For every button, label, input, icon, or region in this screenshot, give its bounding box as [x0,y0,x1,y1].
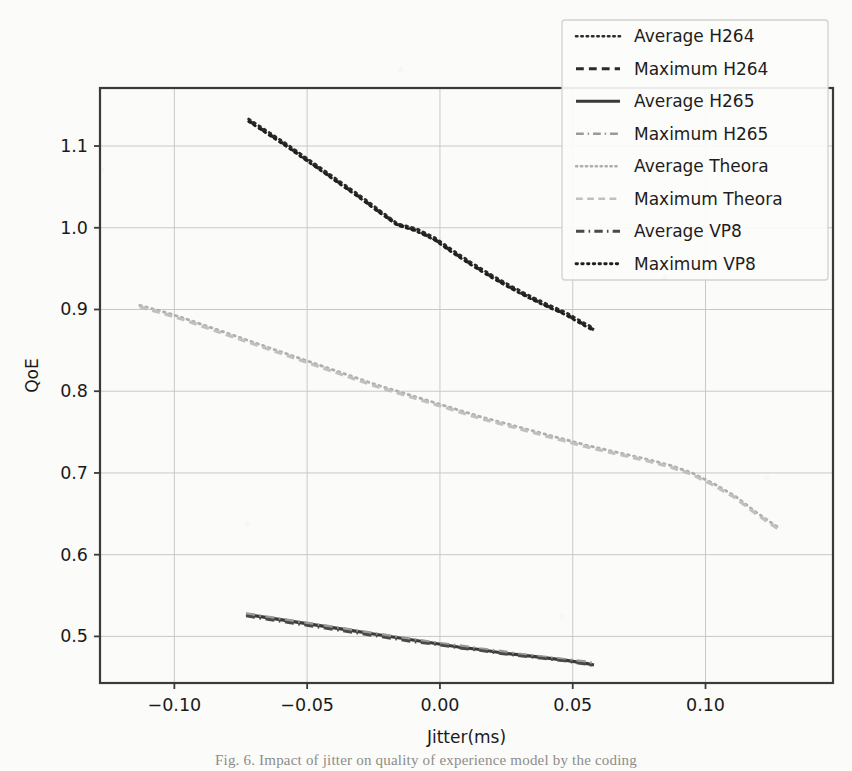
xtick-label: −0.10 [148,695,202,715]
xtick-label: 0.05 [553,695,592,715]
legend-label-average-h265: Average H265 [634,91,754,111]
series-average-h264 [249,119,594,328]
ytick-label: 0.5 [60,626,88,646]
series-maximum-theora [140,307,780,530]
figure-page: −0.10−0.050.000.050.100.50.60.70.80.91.0… [0,0,852,771]
ytick-label: 1.0 [60,218,88,238]
series-average-theora [140,305,780,528]
legend-label-maximum-vp8: Maximum VP8 [634,254,756,274]
xtick-label: 0.00 [420,695,459,715]
legend-label-average-h264: Average H264 [634,26,754,46]
legend-label-maximum-h264: Maximum H264 [634,59,768,79]
axis-labels: Jitter(ms)QoE [22,358,506,747]
chart-legend[interactable]: Average H264Maximum H264Average H265Maxi… [562,20,828,280]
qoe-jitter-chart: −0.10−0.050.000.050.100.50.60.70.80.91.0… [0,0,852,771]
ytick-label: 0.8 [60,381,88,401]
ytick-label: 0.9 [60,299,88,319]
x-axis-title: Jitter(ms) [426,727,506,747]
ytick-label: 0.6 [60,545,88,565]
ytick-label: 0.7 [60,463,88,483]
figure-caption: Fig. 6. Impact of jitter on quality of e… [0,752,852,769]
y-axis-title: QoE [22,358,42,393]
series-maximum-h264 [249,121,594,330]
ytick-label: 1.1 [60,136,88,156]
legend-label-average-vp8: Average VP8 [634,221,742,241]
xtick-label: 0.10 [686,695,725,715]
xtick-label: −0.05 [280,695,334,715]
legend-label-maximum-theora: Maximum Theora [634,189,783,209]
legend-label-maximum-h265: Maximum H265 [634,124,768,144]
legend-label-average-theora: Average Theora [634,156,769,176]
